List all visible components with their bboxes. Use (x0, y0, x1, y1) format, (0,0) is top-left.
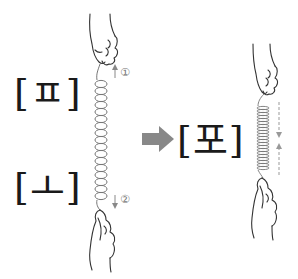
step-2-marker: ② (120, 193, 130, 206)
vowel-label: [ㅗ] (14, 168, 82, 206)
syllable-label: [포] (177, 121, 245, 159)
diagram-drawing (0, 0, 298, 279)
up-arrow-icon (112, 64, 118, 78)
down-arrow-icon (112, 195, 118, 209)
left-spring-icon (95, 64, 107, 210)
right-top-hand-icon (253, 44, 278, 95)
right-bottom-hand-icon (252, 178, 277, 240)
diagram-canvas: [ㅍ] [ㅗ] [포] ① ② (0, 0, 298, 279)
step-1-marker: ① (120, 66, 130, 79)
compress-arrows-icon (276, 102, 282, 175)
transition-arrow-icon (142, 126, 174, 152)
right-spring-icon (257, 94, 269, 178)
top-hand-icon (90, 14, 118, 65)
bottom-hand-icon (90, 210, 115, 272)
consonant-label: [ㅍ] (14, 74, 82, 112)
